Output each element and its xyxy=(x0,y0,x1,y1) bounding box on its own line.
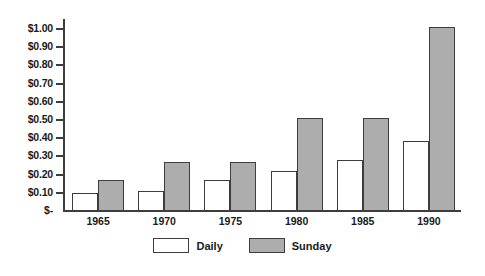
bar-daily-1985 xyxy=(337,160,363,211)
bar-group-1970 xyxy=(138,20,190,211)
bar-daily-1970 xyxy=(138,191,164,211)
y-axis-tick-label: $0.80 xyxy=(28,58,53,70)
plot-area xyxy=(63,20,460,211)
x-axis-tick-label-1975: 1975 xyxy=(204,215,256,227)
legend-entry-sunday: Sunday xyxy=(249,238,332,253)
y-axis-label-group: $-$0.10$0.20$0.30$0.40$0.50$0.60$0.70$0.… xyxy=(0,0,53,276)
y-axis-tick-label: $0.50 xyxy=(28,113,53,125)
x-axis-tick-label-1970: 1970 xyxy=(138,215,190,227)
bar-group-1990 xyxy=(403,20,455,211)
y-axis-tick-label: $0.20 xyxy=(28,168,53,180)
y-axis-tick-label: $0.10 xyxy=(28,186,53,198)
x-axis-tick-label-1985: 1985 xyxy=(337,215,389,227)
y-axis-tick-label: $0.70 xyxy=(28,77,53,89)
bar-daily-1990 xyxy=(403,141,429,211)
bar-group-1975 xyxy=(204,20,256,211)
bar-group-1965 xyxy=(72,20,124,211)
y-axis-tick-label: $- xyxy=(44,204,53,216)
bar-sunday-1990 xyxy=(429,27,455,211)
y-axis-tick-label: $0.40 xyxy=(28,131,53,143)
bar-sunday-1970 xyxy=(164,162,190,211)
legend-swatch-sunday xyxy=(249,238,285,253)
y-axis-tick-label: $0.90 xyxy=(28,40,53,52)
legend-label-sunday: Sunday xyxy=(292,240,332,252)
y-axis-tick-label: $0.60 xyxy=(28,95,53,107)
bar-daily-1980 xyxy=(271,171,297,211)
bar-daily-1965 xyxy=(72,193,98,211)
x-axis-tick-label-1965: 1965 xyxy=(72,215,124,227)
x-axis-tick-label-1980: 1980 xyxy=(271,215,323,227)
legend-swatch-daily xyxy=(153,238,189,253)
bar-sunday-1965 xyxy=(98,180,124,211)
bar-group-1980 xyxy=(271,20,323,211)
bar-sunday-1975 xyxy=(230,162,256,211)
chart-legend: DailySunday xyxy=(0,238,485,253)
bar-daily-1975 xyxy=(204,180,230,211)
y-axis-tick-label: $1.00 xyxy=(28,22,53,34)
y-axis-tick-label: $0.30 xyxy=(28,149,53,161)
legend-entry-daily: Daily xyxy=(153,238,222,253)
bar-sunday-1980 xyxy=(297,118,323,211)
bar-sunday-1985 xyxy=(363,118,389,211)
x-axis-tick-label-1990: 1990 xyxy=(403,215,455,227)
bar-group-1985 xyxy=(337,20,389,211)
legend-label-daily: Daily xyxy=(196,240,222,252)
bar-chart: $-$0.10$0.20$0.30$0.40$0.50$0.60$0.70$0.… xyxy=(0,0,485,276)
